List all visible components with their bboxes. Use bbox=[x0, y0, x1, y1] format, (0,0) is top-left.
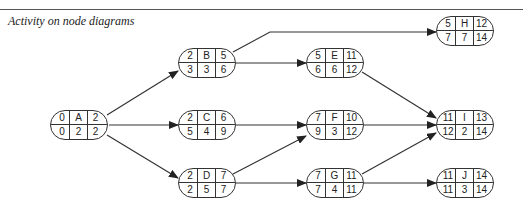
node-a: 0 A 2 0 2 2 bbox=[50, 110, 108, 140]
node-h: 5 H 12 7 7 14 bbox=[436, 16, 494, 46]
activity-label: C bbox=[198, 111, 216, 125]
duration: 5 bbox=[198, 183, 216, 197]
duration: 6 bbox=[326, 63, 344, 77]
earliest-start: 7 bbox=[307, 111, 326, 125]
duration: 7 bbox=[456, 31, 474, 45]
node-j: 11 J 14 11 3 14 bbox=[436, 168, 494, 198]
node-d: 2 D 7 2 5 7 bbox=[178, 168, 236, 198]
node-i: 11 I 13 12 2 14 bbox=[436, 110, 494, 140]
earliest-start: 11 bbox=[437, 111, 456, 125]
duration: 4 bbox=[326, 183, 344, 197]
activity-label: D bbox=[198, 169, 216, 183]
duration: 3 bbox=[198, 63, 216, 77]
earliest-start: 7 bbox=[307, 169, 326, 183]
edge-a-d bbox=[107, 135, 178, 178]
node-f: 7 F 10 9 3 12 bbox=[306, 110, 364, 140]
activity-label: E bbox=[326, 49, 344, 63]
earliest-start: 5 bbox=[307, 49, 326, 63]
earliest-start: 11 bbox=[437, 169, 456, 183]
duration: 4 bbox=[198, 125, 216, 139]
node-g: 7 G 11 7 4 11 bbox=[306, 168, 364, 198]
duration: 3 bbox=[326, 125, 344, 139]
edge-a-b bbox=[107, 71, 178, 115]
earliest-start: 2 bbox=[179, 169, 198, 183]
activity-label: I bbox=[456, 111, 474, 125]
node-c: 2 C 6 5 4 9 bbox=[178, 110, 236, 140]
activity-label: H bbox=[456, 17, 474, 31]
earliest-start: 2 bbox=[179, 49, 198, 63]
activity-label: F bbox=[326, 111, 344, 125]
edge-g-i bbox=[362, 133, 436, 174]
duration: 3 bbox=[456, 183, 474, 197]
earliest-start: 0 bbox=[51, 111, 70, 125]
earliest-start: 5 bbox=[437, 17, 456, 31]
activity-label: B bbox=[198, 49, 216, 63]
duration: 2 bbox=[70, 125, 88, 139]
earliest-start: 2 bbox=[179, 111, 198, 125]
edge-e-i bbox=[362, 72, 436, 118]
edge-d-f bbox=[233, 136, 306, 174]
duration: 2 bbox=[456, 125, 474, 139]
activity-label: J bbox=[456, 169, 474, 183]
node-e: 5 E 11 6 6 12 bbox=[306, 48, 364, 78]
activity-label: G bbox=[326, 169, 344, 183]
activity-label: A bbox=[70, 111, 88, 125]
node-b: 2 B 5 3 3 6 bbox=[178, 48, 236, 78]
